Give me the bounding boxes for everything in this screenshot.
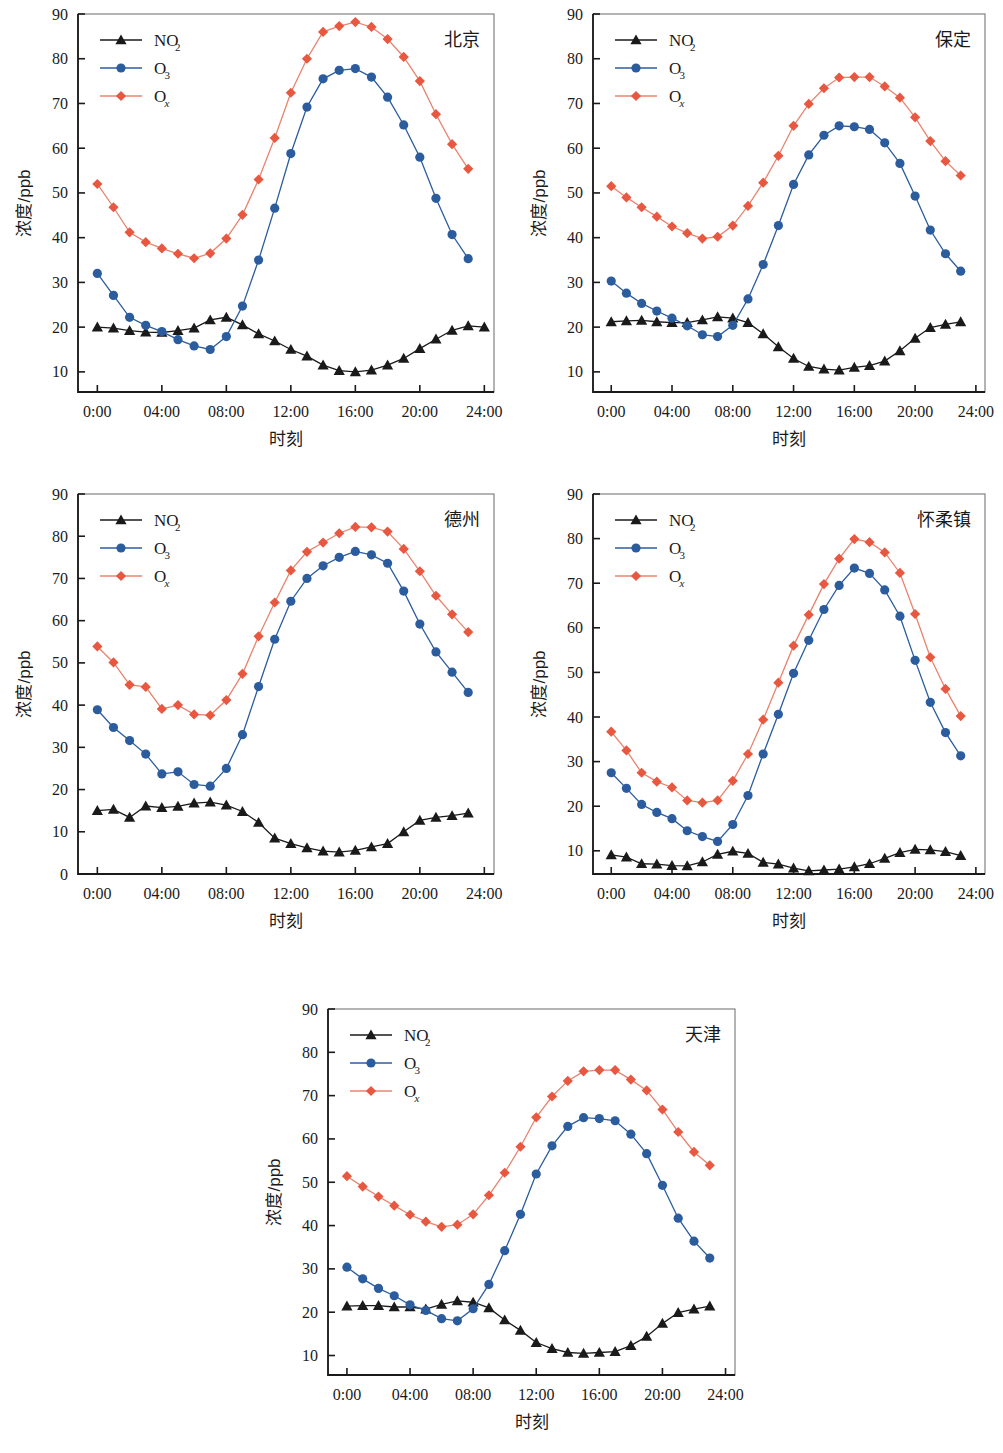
- data-point: [382, 360, 393, 370]
- data-point: [373, 1191, 383, 1201]
- data-point: [383, 559, 392, 568]
- x-tick-label: 0:00: [333, 1386, 361, 1403]
- data-point: [594, 1065, 604, 1075]
- data-point: [788, 641, 798, 651]
- data-point: [704, 1301, 715, 1311]
- data-point: [636, 315, 647, 325]
- y-tick-label: 20: [567, 319, 583, 336]
- data-point: [713, 332, 722, 341]
- data-point: [351, 64, 360, 73]
- legend-label-subscript: 3: [680, 69, 686, 81]
- chart-panel-1: 1020304050607080900:0004:0008:0012:0016:…: [515, 0, 1003, 470]
- y-tick-label: 40: [52, 697, 68, 714]
- data-point: [697, 233, 707, 243]
- data-point: [286, 149, 295, 158]
- data-point: [705, 1253, 714, 1262]
- data-point: [253, 631, 263, 641]
- data-point: [532, 1169, 541, 1178]
- data-point: [141, 321, 150, 330]
- data-point: [804, 636, 813, 645]
- legend-item-no2: NO2: [100, 31, 181, 53]
- series-ox: [342, 1065, 715, 1232]
- data-point: [636, 858, 647, 868]
- x-axis-label: 时刻: [269, 912, 303, 931]
- data-point: [350, 522, 360, 532]
- legend-item-no2: NO2: [615, 31, 696, 53]
- data-point: [642, 1149, 651, 1158]
- data-point: [285, 838, 296, 848]
- data-point: [658, 1181, 667, 1190]
- data-point: [334, 21, 344, 31]
- data-point: [547, 1141, 556, 1150]
- x-tick-label: 08:00: [208, 403, 244, 420]
- data-point: [637, 202, 647, 212]
- data-point: [437, 1314, 446, 1323]
- data-point: [415, 76, 425, 86]
- x-tick-label: 08:00: [208, 885, 244, 902]
- data-point: [447, 668, 456, 677]
- x-tick-label: 24:00: [466, 403, 502, 420]
- data-point: [254, 255, 263, 264]
- plot-frame: [593, 14, 985, 392]
- legend-item-o3: O3: [615, 539, 686, 561]
- data-point: [398, 353, 409, 363]
- y-tick-label: 20: [567, 798, 583, 815]
- data-point: [657, 1318, 668, 1328]
- data-point: [140, 800, 151, 810]
- data-point: [834, 72, 844, 82]
- data-point: [607, 276, 616, 285]
- data-point: [652, 808, 661, 817]
- y-tick-label: 30: [567, 274, 583, 291]
- data-point: [109, 291, 118, 300]
- data-point: [697, 856, 708, 866]
- data-point: [911, 656, 920, 665]
- data-point: [579, 1113, 588, 1122]
- legend-label-subscript: 2: [690, 41, 696, 53]
- legend: NO2O3Ox: [350, 1026, 431, 1104]
- y-tick-label: 30: [302, 1260, 318, 1277]
- data-point: [865, 569, 874, 578]
- data-point: [317, 360, 328, 370]
- x-tick-label: 20:00: [644, 1386, 680, 1403]
- data-point: [351, 547, 360, 556]
- data-point: [188, 322, 199, 332]
- data-point: [398, 826, 409, 836]
- series-o3: [93, 64, 473, 354]
- plot-frame: [78, 14, 494, 392]
- data-point: [415, 566, 425, 576]
- data-point: [238, 302, 247, 311]
- data-point: [302, 54, 312, 64]
- x-tick-label: 08:00: [715, 403, 751, 420]
- data-point: [205, 797, 216, 807]
- y-axis-label: 浓度/ppb: [530, 650, 549, 717]
- y-tick-label: 10: [567, 363, 583, 380]
- data-point: [758, 178, 768, 188]
- legend-label-subscript: x: [164, 97, 170, 109]
- legend: NO2O3Ox: [100, 31, 181, 109]
- y-tick-label: 50: [302, 1174, 318, 1191]
- data-point: [674, 1214, 683, 1223]
- series-o3: [607, 121, 966, 341]
- data-point: [667, 814, 676, 823]
- data-point: [626, 1075, 636, 1085]
- legend-item-ox: Ox: [100, 87, 170, 109]
- data-point: [819, 131, 828, 140]
- x-tick-label: 20:00: [897, 403, 933, 420]
- data-point: [759, 260, 768, 269]
- data-point: [941, 249, 950, 258]
- data-point: [342, 1171, 352, 1181]
- data-point: [910, 609, 920, 619]
- data-point: [189, 253, 199, 263]
- data-point: [415, 153, 424, 162]
- data-point: [500, 1246, 509, 1255]
- data-point: [850, 563, 859, 572]
- data-point: [910, 333, 921, 343]
- data-point: [237, 669, 247, 679]
- data-point: [318, 537, 328, 547]
- data-point: [940, 684, 950, 694]
- legend-label-subscript: x: [679, 577, 685, 589]
- data-point: [698, 832, 707, 841]
- data-point: [865, 125, 874, 134]
- y-axis: 0102030405060708090: [52, 486, 85, 883]
- data-point: [607, 768, 616, 777]
